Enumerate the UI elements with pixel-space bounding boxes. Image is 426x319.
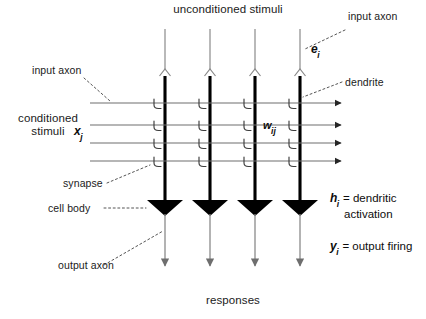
synapse-3-1 — [244, 99, 251, 109]
label-input-axon-left: input axon — [32, 64, 81, 76]
synapse-2-1 — [199, 99, 206, 109]
h-subscript: i — [337, 199, 339, 209]
title-unconditioned-stimuli: unconditioned stimuli — [148, 3, 308, 17]
e-subscript: i — [317, 50, 319, 60]
label-w-ij: wij — [263, 119, 276, 134]
neuron-column-4 — [282, 29, 318, 266]
leader-synapse — [107, 165, 150, 183]
input-axon-1 — [160, 29, 171, 76]
neuron-column-1 — [147, 29, 183, 266]
synapse-4-3 — [289, 139, 296, 149]
title-responses: responses — [178, 294, 288, 308]
label-e-i: ei — [311, 42, 320, 58]
synapse-1-4 — [154, 157, 161, 167]
synapse-1-2 — [154, 121, 161, 131]
label-input-axon-top: input axon — [348, 10, 397, 22]
input-axon-4 — [295, 29, 306, 76]
synapse-1-3 — [154, 139, 161, 149]
input-axon-3 — [250, 29, 261, 76]
h-line-1: hi = dendritic — [330, 192, 396, 208]
neuron-column-3 — [237, 29, 273, 266]
neuron-column-2 — [192, 29, 228, 266]
synapse-3-2 — [244, 121, 251, 131]
synapse-3-4 — [244, 157, 251, 167]
synapse-3-3 — [244, 139, 251, 149]
neuron-network-diagram: unconditioned stimuli input axon input a… — [0, 0, 426, 319]
label-output-axon: output axon — [58, 259, 114, 271]
y-description: = output firing — [342, 240, 412, 252]
y-subscript: i — [336, 247, 338, 257]
cell-body-2 — [192, 200, 228, 216]
cell-body-3 — [237, 200, 273, 216]
x-subscript: j — [80, 132, 82, 142]
leader-lines — [84, 30, 345, 265]
input-axon-2 — [205, 29, 216, 76]
cell-body-4 — [282, 200, 318, 216]
synapse-4-1 — [289, 99, 296, 109]
synapse-2-2 — [199, 121, 206, 131]
h-description-line1: = dendritic — [343, 192, 396, 204]
label-dendrite: dendrite — [345, 76, 384, 88]
leader-dendrite — [303, 82, 342, 97]
synapse-4-2 — [289, 121, 296, 131]
synapse-2-3 — [199, 139, 206, 149]
label-cell-body: cell body — [48, 202, 90, 214]
cell-body-1 — [147, 200, 183, 216]
label-y-i-output-firing: yi = output firing — [330, 239, 412, 255]
label-h-i-dendritic-activation: hi = dendritic activation — [330, 192, 396, 221]
conditioned-stimuli-lines — [90, 103, 341, 161]
synapse-4-4 — [289, 157, 296, 167]
leader-input-axon-left — [84, 78, 110, 101]
label-x-j: xj — [74, 124, 83, 140]
label-synapse: synapse — [63, 177, 103, 189]
h-description-line2: activation — [330, 208, 396, 221]
synapse-2-4 — [199, 157, 206, 167]
synapse-1-1 — [154, 99, 161, 109]
w-subscript: ij — [271, 126, 276, 136]
